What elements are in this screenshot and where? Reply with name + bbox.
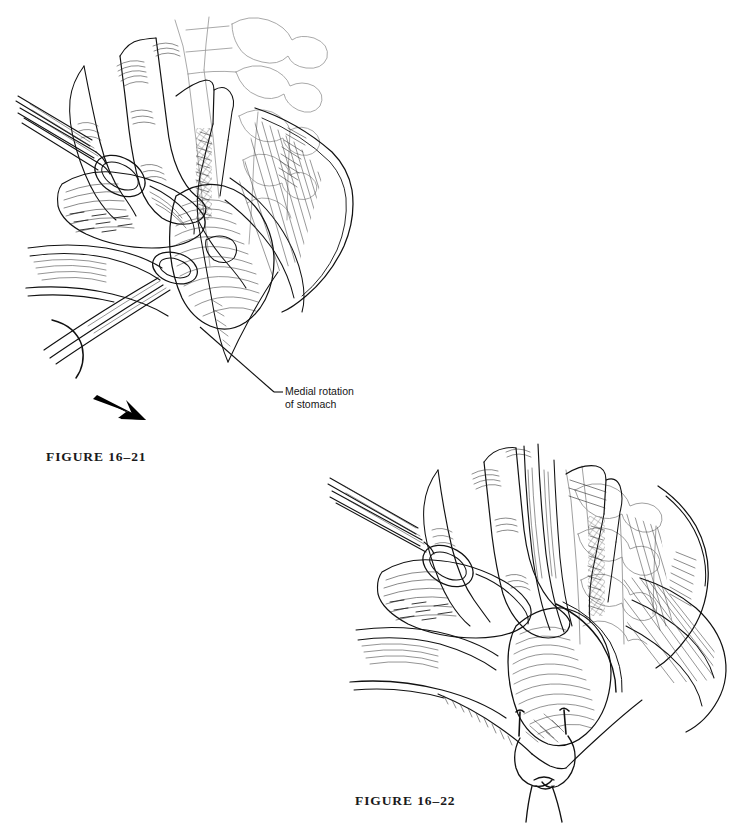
ring-handled-clamp — [328, 478, 480, 595]
gauze-sponge — [378, 560, 532, 638]
incision-apex — [198, 222, 278, 362]
hatched-muscle-wall — [610, 486, 726, 732]
hiatal-sutures — [515, 700, 642, 822]
label-medial-rotation-of-stomach: Medial rotationof stomach — [285, 385, 354, 410]
figure-16-22-caption: FIGURE 16–22 — [355, 793, 455, 809]
label-line-1: Medial rotation — [285, 385, 354, 397]
gauze-sponge — [58, 172, 206, 248]
retractor-blade — [350, 627, 532, 754]
hatched-muscle-wall — [225, 108, 353, 314]
figure-16-21-artwork — [0, 0, 430, 470]
lower-ring-clamp — [44, 247, 202, 364]
label-line-2: of stomach — [285, 398, 336, 410]
direction-arrow — [93, 395, 146, 420]
figure-16-21-illustration — [0, 0, 430, 470]
retractor-strips — [524, 444, 572, 632]
illustration-page: Medial rotationof stomach FIGURE 16–21 F… — [0, 0, 742, 833]
figure-16-21-caption: FIGURE 16–21 — [46, 449, 146, 465]
figure-16-22-illustration — [320, 430, 742, 833]
figure-16-22-artwork — [320, 430, 742, 833]
retractor-blade — [26, 245, 168, 316]
apex-shading — [526, 714, 564, 742]
surgeon-fingers — [70, 38, 206, 224]
